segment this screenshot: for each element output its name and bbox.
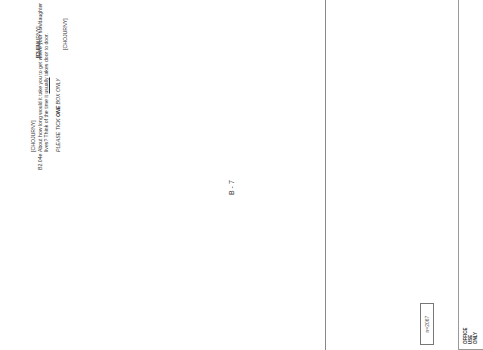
instruction: PLEASE TICK ONE BOX ONLY: [55, 3, 62, 170]
question-text-line2: lives? Think of the time it usually take…: [43, 3, 50, 170]
text: PLEASE TICK: [55, 117, 61, 152]
text: BOX ONLY: [55, 78, 61, 106]
q-header: [CHOJURNY] B2.04e About how long would i…: [30, 3, 61, 170]
text: takes door to door.: [43, 33, 49, 77]
underlined-text: usually: [43, 77, 49, 93]
bold-text: ONE: [55, 106, 61, 117]
questionnaire-content: [CHOJURNY] B2.04e About how long would i…: [0, 0, 483, 350]
text: lives? Think of the time it: [43, 94, 49, 152]
question-number: B2.04e: [37, 152, 44, 170]
